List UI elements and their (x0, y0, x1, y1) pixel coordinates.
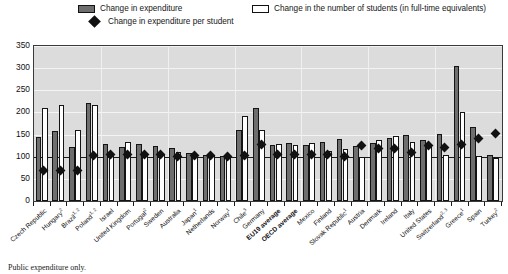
x-axis-category-labels: Czech RepublicHungary2Brazil1, 2Poland1,… (0, 205, 508, 260)
y-axis-tick-100: 100 (16, 151, 30, 161)
bar-students (209, 156, 215, 201)
legend-label-students: Change in the number of students (in ful… (274, 4, 486, 13)
bar-group (101, 46, 118, 201)
bar-students (443, 155, 449, 201)
bar-expenditure (220, 156, 226, 201)
bar-group (469, 46, 486, 201)
filled-bar-swatch-icon (78, 5, 95, 13)
bar-students (460, 112, 466, 201)
bar-students (42, 108, 48, 201)
bar-group (67, 46, 84, 201)
y-axis-tick-250: 250 (16, 84, 30, 94)
bar-students (192, 155, 198, 201)
bar-expenditure (370, 143, 376, 201)
legend-label-per-student: Change in expenditure per student (108, 17, 234, 26)
y-axis-tick-0: 0 (25, 195, 30, 205)
bar-expenditure (403, 135, 409, 201)
bar-expenditure (52, 131, 58, 201)
y-axis-tick-200: 200 (16, 106, 30, 116)
bar-expenditure (186, 153, 192, 201)
open-bar-swatch-icon (252, 5, 269, 13)
legend-label-expenditure: Change in expenditure (100, 4, 182, 13)
bar-group (218, 46, 235, 201)
bar-group (402, 46, 419, 201)
bar-group (285, 46, 302, 201)
expenditure-change-chart: Change in expenditure Change in the numb… (0, 0, 508, 274)
chart-legend: Change in expenditure Change in the numb… (0, 0, 508, 36)
bar-group (134, 46, 151, 201)
bar-series-container (34, 46, 502, 201)
plot-area (33, 45, 503, 202)
bar-group (235, 46, 252, 201)
bar-group (51, 46, 68, 201)
bar-expenditure (203, 155, 209, 201)
y-axis-tick-50: 50 (21, 173, 30, 183)
legend-item-per-student: Change in expenditure per student (86, 17, 234, 26)
bar-group (84, 46, 101, 201)
bar-group (385, 46, 402, 201)
bar-students (359, 157, 365, 201)
plot-area-wrapper: 050100150200250300350 (0, 40, 508, 210)
bar-group (485, 46, 502, 201)
marker-expenditure-per-student (490, 129, 500, 139)
bar-group (335, 46, 352, 201)
bar-group (301, 46, 318, 201)
bar-students (142, 153, 148, 201)
bar-expenditure (337, 139, 343, 201)
bar-group (184, 46, 201, 201)
bar-students (476, 156, 482, 201)
x-axis-label-mexico: Mexico (295, 207, 315, 226)
bar-group (452, 46, 469, 201)
bar-students (59, 105, 65, 201)
bar-expenditure (454, 66, 460, 201)
bar-expenditure (69, 147, 75, 201)
bar-group (318, 46, 335, 201)
bar-group (251, 46, 268, 201)
y-axis-tick-300: 300 (16, 62, 30, 72)
bar-expenditure (253, 108, 259, 201)
chart-footnote: Public expenditure only. (8, 263, 86, 272)
y-axis-tick-150: 150 (16, 129, 30, 139)
bar-group (34, 46, 51, 201)
bar-group (368, 46, 385, 201)
bar-group (151, 46, 168, 201)
bar-group (435, 46, 452, 201)
x-axis-label-ireland: Ireland (379, 207, 399, 226)
bar-group (268, 46, 285, 201)
bar-students (493, 158, 499, 201)
bar-group (118, 46, 135, 201)
bar-expenditure (420, 140, 426, 201)
bar-students (226, 156, 232, 201)
diamond-marker-icon (88, 15, 101, 28)
bar-students (426, 145, 432, 201)
bar-students (109, 156, 115, 201)
bar-group (201, 46, 218, 201)
y-axis-tick-350: 350 (16, 40, 30, 50)
bar-students (159, 155, 165, 201)
bar-group (352, 46, 369, 201)
bar-expenditure (487, 155, 493, 202)
bar-group (418, 46, 435, 201)
y-axis-tick-labels: 050100150200250300350 (0, 40, 33, 203)
bar-group (168, 46, 185, 201)
legend-item-students: Change in the number of students (in ful… (252, 4, 486, 13)
legend-item-expenditure: Change in expenditure (78, 4, 182, 13)
bar-expenditure (353, 146, 359, 201)
bar-expenditure (236, 130, 242, 201)
